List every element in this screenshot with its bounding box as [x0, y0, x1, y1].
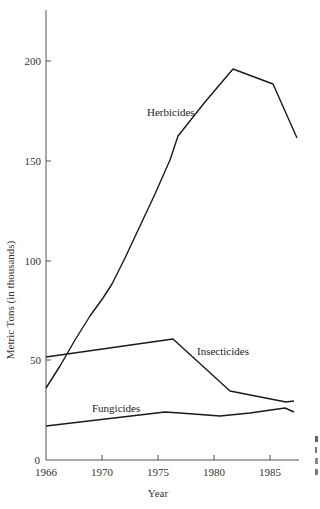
y-axis-title: Metric Tons (in thousands) — [4, 240, 17, 359]
x-tick-label: 1980 — [203, 466, 226, 478]
herbicides-label: Herbicides — [147, 106, 195, 118]
x-tick-label: 1975 — [147, 466, 170, 478]
x-tick-label: 1985 — [259, 466, 282, 478]
y-tick-label: 200 — [25, 55, 42, 67]
x-tick-label: 1970 — [91, 466, 114, 478]
x-axis-title: Year — [148, 487, 169, 499]
fungicides-label: Fungicides — [92, 402, 140, 414]
cropped-caption-fragment — [315, 436, 318, 475]
y-tick-label: 50 — [30, 354, 42, 366]
fungicides-line — [46, 408, 294, 426]
y-ticks: 0 50 100 150 200 — [25, 55, 52, 466]
x-tick-label: 1966 — [35, 466, 58, 478]
pesticide-line-chart: 0 50 100 150 200 1966 1970 1975 1980 198… — [0, 0, 320, 509]
insecticides-label: Insecticides — [197, 345, 249, 357]
x-ticks: 1966 1970 1975 1980 1985 — [35, 455, 282, 478]
y-tick-label: 100 — [25, 255, 42, 267]
insecticides-line — [46, 339, 294, 402]
y-tick-label: 150 — [25, 155, 42, 167]
y-tick-label: 0 — [35, 454, 41, 466]
